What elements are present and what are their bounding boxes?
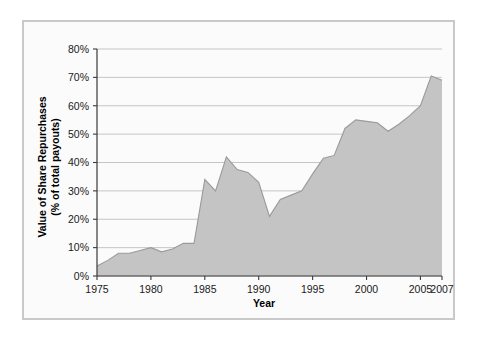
chart-figure-frame: 0%10%20%30%40%50%60%70%80% 1975198019851…	[22, 20, 455, 320]
y-tick-label: 80%	[68, 43, 89, 55]
y-tick-label: 40%	[68, 156, 89, 168]
x-tick-label: 1995	[301, 283, 325, 295]
y-tick-label: 50%	[68, 128, 89, 140]
y-axis-title-line1: Value of Share Repurchases	[36, 96, 48, 237]
y-axis-title-line2: (% of total payouts)	[49, 118, 61, 215]
x-tick-label: 1980	[139, 283, 163, 295]
y-tick-label: 10%	[68, 241, 89, 253]
x-tick-label: 1990	[247, 283, 271, 295]
x-tick-label: 1975	[85, 283, 109, 295]
x-axis-ticks-group	[97, 276, 442, 280]
area-chart: 0%10%20%30%40%50%60%70%80% 1975198019851…	[24, 22, 457, 322]
y-tick-label: 30%	[68, 185, 89, 197]
y-tick-label: 60%	[68, 100, 89, 112]
x-tick-label: 2007	[430, 283, 454, 295]
y-axis-tick-labels: 0%10%20%30%40%50%60%70%80%	[68, 43, 89, 282]
y-tick-label: 0%	[74, 270, 89, 282]
x-tick-label: 2000	[355, 283, 379, 295]
x-tick-label: 1985	[193, 283, 217, 295]
y-tick-label: 20%	[68, 213, 89, 225]
x-axis-tick-labels: 19751980198519901995200020052007	[85, 283, 454, 295]
x-tick-label: 2005	[409, 283, 433, 295]
y-tick-label: 70%	[68, 71, 89, 83]
x-axis-title: Year	[253, 297, 275, 309]
